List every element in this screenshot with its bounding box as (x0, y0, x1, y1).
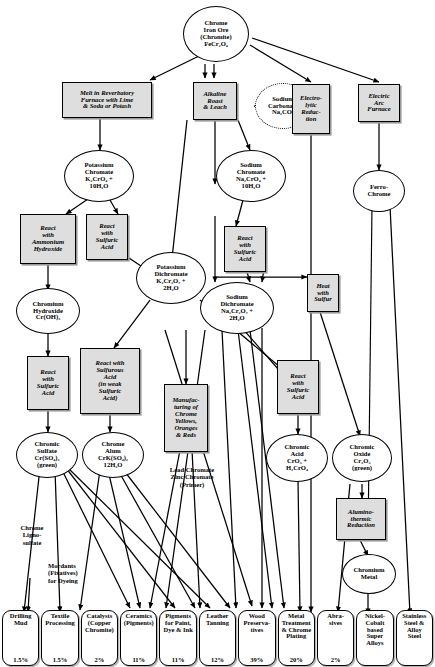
end-use-wood[interactable]: WoodPreserva-tives39% (238, 610, 275, 666)
node-electrolytic-reduction[interactable]: Electro-lyticReduc-tion (292, 84, 330, 134)
node-potassium-chromate: PotassiumChromateK₂CrO₄ +10H₂O (64, 150, 134, 202)
node-chromium-metal: ChromiumMetal (342, 554, 396, 594)
end-use-metal[interactable]: MetalTreatment& ChromePlating20% (278, 610, 315, 666)
end-use-wood-label: WoodPreserva-tives (240, 613, 273, 633)
end-use-leather-label: LeatherTanning (201, 613, 234, 627)
node-alkaline-roast-leach[interactable]: AlkalineRoast& Leach (193, 82, 237, 120)
node-react-sulfurous-acid[interactable]: React withSulfurousAcid(in weakSulfuricA… (80, 348, 140, 414)
end-use-stainless[interactable]: StainlessSteel &AlloySteel (396, 610, 433, 666)
end-use-ceramics[interactable]: Ceramics(Pigments)11% (120, 610, 157, 666)
end-use-textile-percent: 1.5% (43, 657, 76, 664)
end-use-ceramics-percent: 11% (122, 657, 155, 664)
end-use-ceramics-label: Ceramics(Pigments) (122, 613, 155, 627)
end-use-superalloy[interactable]: Nickel-CobaltbasedSuperAlloys (356, 610, 393, 666)
end-use-catalysts[interactable]: Catalysts(CopperChromite)2% (81, 610, 118, 666)
node-react-sulfuric-acid-d[interactable]: ReactwithSulfuricAcid (277, 360, 319, 414)
node-react-sulfuric-acid-a[interactable]: ReactwithSulfuricAcid (86, 214, 128, 260)
end-use-catalysts-percent: 2% (83, 657, 116, 664)
node-melt-reverbatory-furnace[interactable]: Melt in ReverbatoryFurnace with Lime& So… (62, 82, 152, 118)
node-react-ammonium-hydroxide[interactable]: ReactwithAmmoniumHydroxide (20, 214, 76, 264)
end-use-drilling-label: DrillingMud (4, 613, 37, 627)
node-sodium-chromate: SodiumChromateNa₂CrO₄ +10H₂O (216, 150, 286, 202)
end-use-metal-label: MetalTreatment& ChromePlating (280, 613, 313, 640)
flowchart-canvas: ChromeIron Ore(Chromite)FeCr₂O₄ Melt in … (0, 0, 435, 667)
end-use-metal-percent: 20% (280, 657, 313, 664)
end-use-leather-percent: 12% (201, 657, 234, 664)
node-sodium-dichromate: SodiumDichromateNa₂Cr₂O₇ +2H₂O (200, 282, 274, 334)
node-aluminothermic-reduction[interactable]: Alumino-thermicReduction (336, 498, 386, 540)
label-chrome-lignosulfate: ChromeLigno-sulfate (4, 524, 60, 546)
node-react-sulfuric-acid-c[interactable]: ReactwithSulfuricAcid (27, 356, 69, 410)
label-mordants-fixatives: Mordants(Fixatives)for Dyeing (48, 562, 100, 584)
end-use-abrasives[interactable]: Abra-sives2% (317, 610, 354, 666)
end-use-textile[interactable]: TextileProcessing1.5% (41, 610, 78, 666)
end-use-pigments-percent: 11% (161, 657, 194, 664)
node-ferro-chrome: Ferro-Chrome (353, 170, 405, 212)
node-heat-with-sulfur[interactable]: HeatwithSulfur (307, 274, 339, 312)
end-use-pigments-label: Pigmentsfor Paint,Dye & Ink (161, 613, 194, 633)
end-use-wood-percent: 39% (240, 657, 273, 664)
end-use-stainless-label: StainlessSteel &AlloySteel (398, 613, 431, 640)
node-electric-arc-furnace[interactable]: ElectricArcFurnace (358, 84, 400, 122)
end-use-drilling-percent: 1.5% (4, 657, 37, 664)
end-use-leather[interactable]: LeatherTanning12% (199, 610, 236, 666)
node-manufacturing-chrome-yellows[interactable]: Manufac-turing ofChromeYellows,Oranges& … (164, 384, 208, 452)
node-chrome-iron-ore-label: ChromeIron Ore(Chromite)FeCr₂O₄ (184, 20, 248, 47)
node-chromic-oxide: ChromicOxideCr₂O₃(green) (332, 434, 392, 482)
node-react-sulfuric-acid-b[interactable]: ReactwithSulfuricAcid (224, 226, 266, 272)
end-use-abrasives-percent: 2% (319, 657, 352, 664)
end-use-textile-label: TextileProcessing (43, 613, 76, 627)
label-lead-zinc-chromate: Lead ChromateZinc Chromate(Primer) (150, 466, 234, 488)
end-use-abrasives-label: Abra-sives (319, 613, 352, 627)
node-potassium-dichromate: PotassiumDichromateK₂Cr₂O₇ +2H₂O (136, 252, 206, 304)
node-chrome-iron-ore: ChromeIron Ore(Chromite)FeCr₂O₄ (183, 6, 249, 62)
node-chromium-hydroxide: ChromiumHydroxideCr(OH)₃ (16, 288, 80, 334)
node-chromic-acid: ChromicAcidCrO₃ +H₂CrO₄ (266, 434, 328, 482)
end-use-superalloy-label: Nickel-CobaltbasedSuperAlloys (358, 613, 391, 647)
end-use-pigments[interactable]: Pigmentsfor Paint,Dye & Ink11% (159, 610, 196, 666)
end-use-catalysts-label: Catalysts(CopperChromite) (83, 613, 116, 633)
end-use-drilling[interactable]: DrillingMud1.5% (2, 610, 39, 666)
node-chrome-alum: ChromeAlumCrK(SO₄)₂12H₂O (82, 432, 144, 478)
node-chromic-sulfate: ChromicSulfateCr(SO₄)₃(green) (16, 432, 78, 478)
